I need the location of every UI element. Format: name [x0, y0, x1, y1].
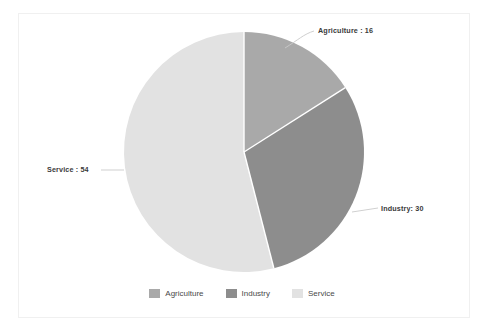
pie-chart-area: Agriculture : 16 Industry: 30 Service : … [0, 0, 484, 329]
legend-item-industry[interactable]: Industry [226, 289, 270, 298]
legend-label-agriculture: Agriculture [165, 289, 203, 298]
legend-swatch-industry [226, 289, 237, 298]
legend-label-service: Service [308, 289, 335, 298]
data-label-service: Service : 54 [47, 165, 89, 174]
legend-swatch-agriculture [149, 289, 160, 298]
leader-line-agriculture [285, 31, 314, 48]
data-label-industry: Industry: 30 [381, 204, 424, 213]
legend-item-agriculture[interactable]: Agriculture [149, 289, 203, 298]
legend-swatch-service [292, 289, 303, 298]
legend-item-service[interactable]: Service [292, 289, 335, 298]
legend-label-industry: Industry [242, 289, 270, 298]
leader-line-industry [352, 208, 378, 212]
data-label-agriculture: Agriculture : 16 [318, 26, 373, 35]
pie-chart-screenshot: Agriculture : 16 Industry: 30 Service : … [0, 0, 484, 329]
chart-legend: Agriculture Industry Service [0, 289, 484, 298]
